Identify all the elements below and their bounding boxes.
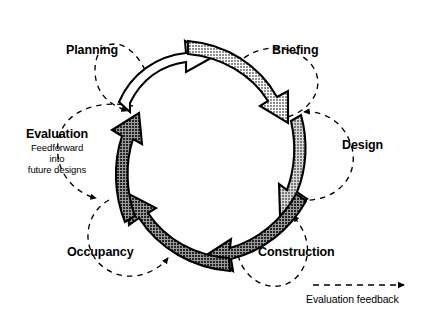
legend-caption: Evaluation feedback — [306, 294, 399, 305]
stage-label-construction: Construction — [258, 246, 335, 260]
stage-label-design: Design — [342, 139, 383, 153]
cycle-diagram: Planning Briefing Design Construction Oc… — [0, 0, 425, 314]
stage-label-briefing: Briefing — [272, 44, 318, 58]
cycle-segment-occupancy[interactable] — [127, 193, 230, 271]
feedback-loop-design — [299, 112, 353, 200]
cycle-ring-group — [112, 41, 307, 271]
stage-label-planning: Planning — [66, 44, 118, 58]
stage-label-evaluation-line-3: future designs — [9, 164, 105, 175]
stage-label-evaluation: Evaluation Feedforward into future desig… — [9, 128, 105, 175]
stage-label-evaluation-line-2: into — [9, 153, 105, 164]
stage-label-evaluation-line-1: Feedforward — [9, 142, 105, 153]
stage-label-occupancy: Occupancy — [67, 246, 134, 260]
stage-label-evaluation-title: Evaluation — [9, 128, 105, 142]
